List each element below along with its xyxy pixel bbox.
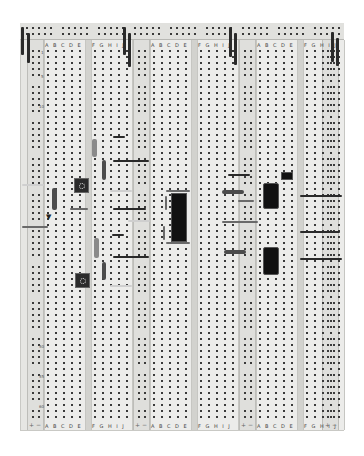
row-number: 5 xyxy=(41,74,44,79)
jumper-wire xyxy=(234,33,237,65)
resistor xyxy=(224,250,246,254)
strip-label-top: A B C D E xyxy=(257,42,294,48)
power-rail-1 xyxy=(27,40,44,430)
strip-label-top: A B C D E xyxy=(45,42,82,48)
strip-label-bottom: A B C D E xyxy=(45,423,82,429)
row-number: 55 xyxy=(39,374,44,379)
rail-minus-label: − xyxy=(36,421,41,428)
rail-plus-label: + xyxy=(325,421,330,428)
strip-label-top: F G H I J xyxy=(92,42,125,48)
jumper-wire xyxy=(113,256,149,258)
resistor xyxy=(102,160,106,180)
jumper-wire xyxy=(165,196,167,210)
rail-plus-label: + xyxy=(241,421,246,428)
jumper-wire xyxy=(110,190,132,192)
jumper-wire xyxy=(128,220,150,222)
rail-plus-label: + xyxy=(135,421,140,428)
row-number: 10 xyxy=(39,104,44,109)
jumper-wire xyxy=(113,208,146,210)
row-number: 60 xyxy=(39,404,44,409)
jumper-wire xyxy=(128,33,131,67)
dip-ic xyxy=(171,193,187,242)
row-number: 1 xyxy=(41,50,44,55)
jumper-wire xyxy=(113,160,149,162)
rail-minus-label: − xyxy=(248,421,253,428)
rail-minus-label: − xyxy=(142,421,147,428)
strip-label-bottom: F G H I J xyxy=(198,423,231,429)
jumper-wire xyxy=(21,27,24,55)
jumper-wire xyxy=(300,258,342,260)
jumper-wire xyxy=(22,226,48,228)
jumper-wire xyxy=(238,200,254,202)
jumper-wire xyxy=(27,33,30,63)
resistor xyxy=(92,139,97,157)
jumper-wire xyxy=(113,136,125,138)
diode xyxy=(281,172,293,180)
jumper-wire xyxy=(300,231,340,233)
rail-plus-label: + xyxy=(29,421,34,428)
resistor xyxy=(102,262,106,280)
trimmer-potentiometer xyxy=(74,178,89,193)
resistor xyxy=(222,190,244,194)
power-rail-2 xyxy=(133,40,150,430)
resistor xyxy=(94,238,99,258)
voltage-regulator xyxy=(263,247,279,275)
jumper-wire xyxy=(112,234,124,236)
jumper-wire xyxy=(300,195,342,197)
jumper-wire xyxy=(166,242,190,244)
jumper-wire xyxy=(229,27,232,57)
trimmer-potentiometer xyxy=(75,273,90,288)
jumper-wire xyxy=(163,226,165,240)
jumper-wire xyxy=(228,174,250,176)
jumper-wire xyxy=(123,27,126,55)
jumper-wire xyxy=(70,208,88,210)
strip-label-bottom: A B C D E xyxy=(257,423,294,429)
resistor xyxy=(52,188,57,210)
jumper-wire xyxy=(331,32,334,62)
jumper-wire xyxy=(336,38,339,66)
diode-icon: ▼ xyxy=(46,213,51,221)
voltage-regulator xyxy=(263,183,279,209)
jumper-wire xyxy=(22,184,44,186)
strip-label-bottom: F G H I J xyxy=(92,423,125,429)
row-number: 50 xyxy=(39,344,44,349)
strip-label-bottom: A B C D E xyxy=(151,423,188,429)
top-power-bus xyxy=(20,23,344,40)
rail-minus-label: − xyxy=(332,421,337,428)
strip-label-top: F G H I J xyxy=(198,42,231,48)
jumper-wire xyxy=(222,221,258,223)
strip-label-top: A B C D E xyxy=(151,42,188,48)
power-rail-3 xyxy=(239,40,256,430)
jumper-wire xyxy=(110,285,132,287)
jumper-wire xyxy=(166,190,190,192)
